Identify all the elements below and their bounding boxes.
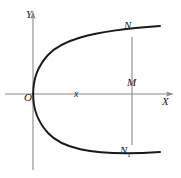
x-axis-label: X: [162, 96, 169, 107]
parabola-lower-branch: [33, 94, 160, 153]
parabola-diagram: Y X O N M N1 x: [0, 0, 181, 178]
point-label-n: N: [124, 20, 131, 31]
parabola-upper-branch: [33, 26, 160, 94]
diagram-canvas: [0, 0, 181, 178]
y-axis-label: Y: [26, 9, 32, 20]
segment-length-label: x: [74, 89, 78, 99]
point-label-m: M: [127, 77, 136, 88]
origin-label: O: [24, 92, 32, 103]
point-label-n1-subscript: 1: [127, 151, 131, 159]
point-label-n1: N1: [120, 145, 131, 159]
